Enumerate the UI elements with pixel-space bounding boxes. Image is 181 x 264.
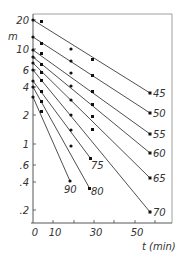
svg-text:50: 50 [131,227,144,238]
svg-text:10: 10 [49,227,62,238]
x-axis-label: t (min) [142,241,176,252]
svg-text:6: 6 [23,65,29,76]
svg-text:70: 70 [153,207,166,218]
line-90 [33,97,70,181]
y-tick-labels: 20 10 6 4 2 1 .6 .4 .2 [16,15,29,216]
svg-text:1: 1 [23,139,29,150]
semilog-chart: 20 10 6 4 2 1 .6 .4 .2 m 0 10 30 50 t (m… [0,0,181,264]
svg-text:10: 10 [16,44,29,55]
y-axis-label: m [8,31,18,42]
svg-text:30: 30 [90,227,103,238]
svg-text:.6: .6 [19,160,29,171]
svg-text:90: 90 [64,184,77,195]
svg-text:.2: .2 [19,205,29,216]
svg-text:20: 20 [16,15,29,26]
line-45 [33,20,150,93]
svg-text:4: 4 [23,82,29,93]
svg-text:0: 0 [32,227,38,238]
svg-text:45: 45 [153,88,166,99]
svg-text:.4: .4 [19,177,29,188]
svg-text:80: 80 [91,186,104,197]
svg-text:75: 75 [91,160,104,171]
svg-text:65: 65 [153,173,166,184]
x-tick-labels: 0 10 30 50 [32,227,144,238]
svg-text:55: 55 [153,129,166,140]
svg-text:50: 50 [153,108,166,119]
svg-text:60: 60 [153,148,166,159]
svg-text:2: 2 [23,110,29,121]
